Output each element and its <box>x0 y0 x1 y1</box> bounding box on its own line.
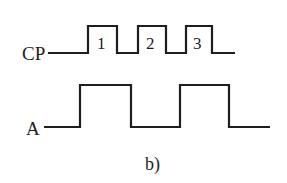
a-signal: A <box>26 85 270 139</box>
cp-waveform <box>48 26 235 53</box>
a-label: A <box>26 118 40 139</box>
figure-caption: b) <box>145 154 160 175</box>
timing-diagram-svg: CP 1 2 3 A b) <box>0 0 287 183</box>
a-waveform <box>44 85 270 127</box>
cp-pulse-label-3: 3 <box>193 34 202 53</box>
cp-label: CP <box>22 43 45 64</box>
cp-pulse-label-1: 1 <box>97 34 106 53</box>
cp-pulse-label-2: 2 <box>146 34 155 53</box>
timing-diagram: CP 1 2 3 A b) <box>0 0 287 183</box>
cp-signal: CP 1 2 3 <box>22 26 235 64</box>
